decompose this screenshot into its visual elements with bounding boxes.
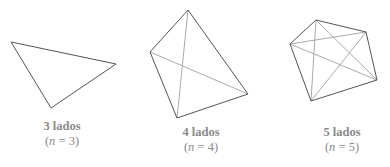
diagonal-line: [290, 44, 377, 80]
label-3-sides: 3 lados (n = 3): [22, 119, 102, 149]
label-title: 4 lados: [161, 125, 241, 140]
diagonal-line: [311, 20, 316, 101]
triangle-figure: [11, 42, 116, 108]
label-title: 3 lados: [22, 119, 102, 134]
label-5-sides: 5 lados (n = 5): [302, 125, 382, 155]
label-n: (n = 4): [161, 140, 241, 155]
polygon-outline: [150, 10, 248, 118]
label-n: (n = 3): [22, 134, 102, 149]
pentagon-figure: [290, 20, 377, 101]
diagonal-line: [316, 20, 377, 80]
label-n: (n = 5): [302, 140, 382, 155]
label-4-sides: 4 lados (n = 4): [161, 125, 241, 155]
label-title: 5 lados: [302, 125, 382, 140]
polygon-outline: [11, 42, 116, 108]
quadrilateral-figure: [150, 10, 248, 118]
